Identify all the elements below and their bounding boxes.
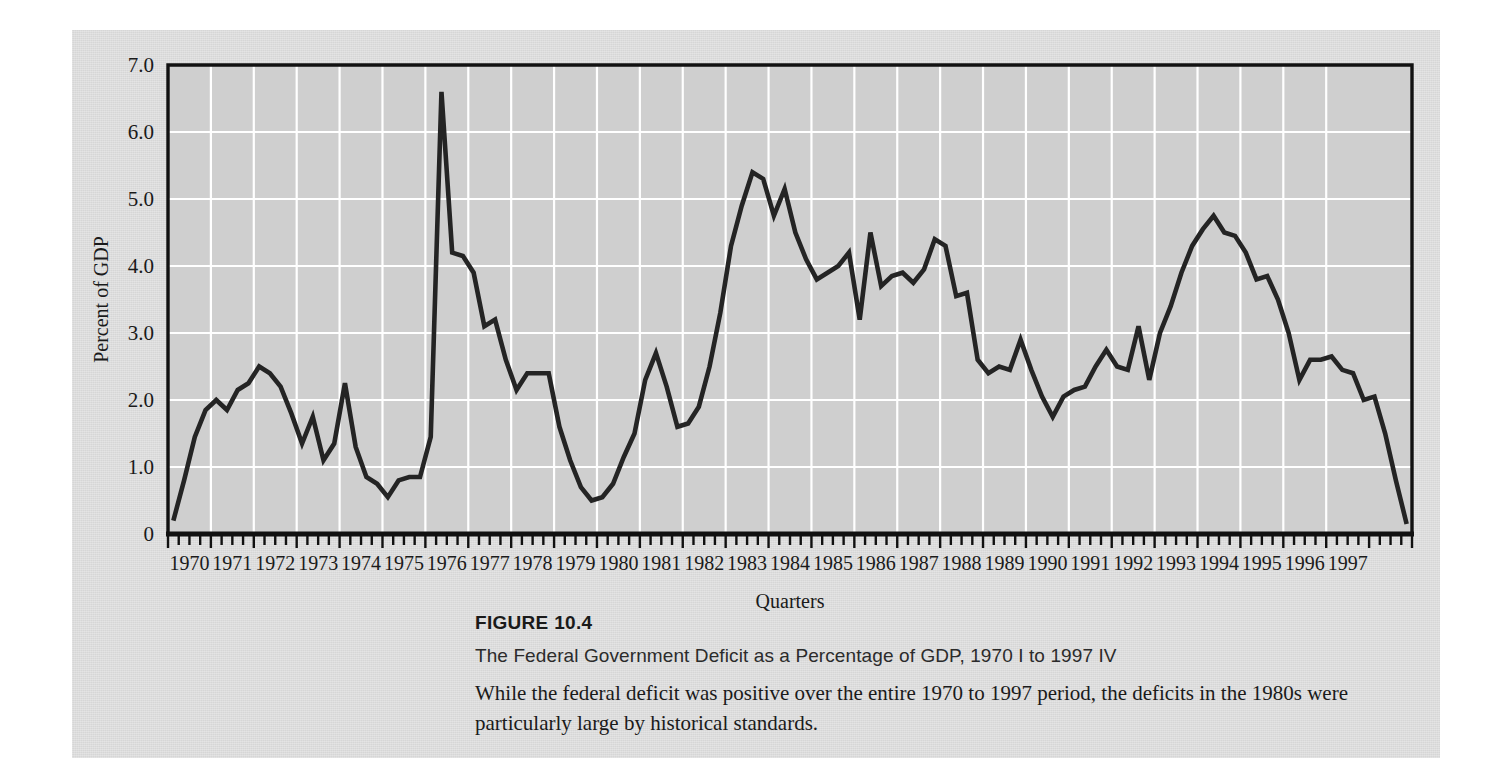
- x-axis-title-text: Quarters: [756, 590, 825, 612]
- plot-background: [168, 65, 1412, 534]
- x-tick-label: 1976: [427, 552, 467, 574]
- y-axis-title-text: Percent of GDP: [90, 236, 112, 363]
- x-tick-label: 1970: [169, 552, 209, 574]
- x-tick-label: 1972: [255, 552, 295, 574]
- x-tick-label: 1975: [384, 552, 424, 574]
- y-tick-label: 1.0: [128, 455, 154, 479]
- figure-title: The Federal Government Deficit as a Perc…: [475, 645, 1395, 667]
- figure-body-text: While the federal deficit was positive o…: [475, 679, 1395, 739]
- x-tick-label: 1978: [513, 552, 553, 574]
- y-axis-title: 01.02.03.04.05.06.07.0Percent of GDP: [90, 53, 154, 546]
- y-tick-label: 3.0: [128, 321, 154, 345]
- y-tick-label: 6.0: [128, 120, 154, 144]
- y-tick-label: 7.0: [128, 53, 154, 77]
- x-tick-label: 1973: [298, 552, 338, 574]
- x-tick-label: 1990: [1027, 552, 1067, 574]
- x-tick-label: 1980: [598, 552, 638, 574]
- x-tick-label: 1996: [1285, 552, 1325, 574]
- x-tick-label: 1977: [470, 552, 510, 574]
- x-tick-label: 1982: [684, 552, 724, 574]
- x-tick-label: 1979: [556, 552, 596, 574]
- x-tick-label: 1989: [984, 552, 1024, 574]
- x-tick-label: 1971: [212, 552, 252, 574]
- y-tick-label: 2.0: [128, 388, 154, 412]
- figure-page: 01.02.03.04.05.06.07.0Percent of GDP 197…: [0, 0, 1497, 782]
- x-tick-label: 1995: [1242, 552, 1282, 574]
- x-tick-label: 1997: [1328, 552, 1368, 574]
- x-tick-label: 1992: [1113, 552, 1153, 574]
- y-tick-label: 0: [144, 522, 155, 546]
- x-tick-label: 1988: [942, 552, 982, 574]
- x-tick-label: 1981: [641, 552, 681, 574]
- x-axis-title: 1970197119721973197419751976197719781979…: [169, 552, 1367, 612]
- x-tick-label: 1984: [770, 552, 810, 574]
- x-tick-label: 1994: [1199, 552, 1239, 574]
- x-tick-label: 1983: [727, 552, 767, 574]
- y-tick-label: 4.0: [128, 254, 154, 278]
- y-tick-label: 5.0: [128, 187, 154, 211]
- x-tick-label: 1991: [1070, 552, 1110, 574]
- x-tick-label: 1986: [856, 552, 896, 574]
- figure-number: FIGURE 10.4: [475, 612, 1395, 634]
- figure-caption: FIGURE 10.4 The Federal Government Defic…: [475, 612, 1395, 739]
- x-tick-label: 1974: [341, 552, 381, 574]
- x-tick-label: 1993: [1156, 552, 1196, 574]
- x-tick-label: 1987: [899, 552, 939, 574]
- x-tick-label: 1985: [813, 552, 853, 574]
